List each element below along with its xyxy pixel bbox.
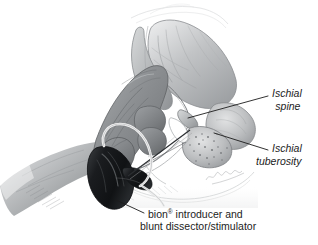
device-brand-name: bion [148, 208, 168, 220]
label-ischial-spine-line1: Ischial [272, 87, 302, 99]
label-ischial-tuberosity-line2: tuberosity [256, 155, 302, 168]
label-ischial-tuberosity-line1: Ischial [272, 142, 302, 154]
label-device: bion® introducer and blunt dissector/sti… [148, 205, 256, 233]
label-device-line1: bion® introducer and [148, 208, 243, 220]
label-ischial-spine-line2: spine [272, 100, 302, 113]
label-device-line2: blunt dissector/stimulator [140, 220, 256, 233]
label-device-line1-rest: introducer and [173, 208, 243, 220]
label-ischial-tuberosity: Ischial tuberosity [272, 142, 302, 167]
illustration-page: Ischial spine Ischial tuberosity bion® i… [0, 0, 318, 245]
label-ischial-spine: Ischial spine [272, 87, 302, 112]
